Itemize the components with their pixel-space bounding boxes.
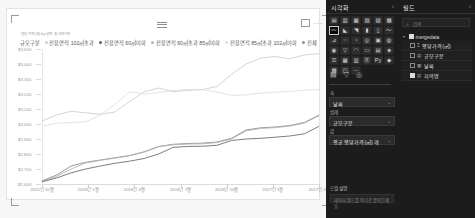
chevron-down-icon[interactable]: ⌄ (387, 138, 391, 143)
visual-pane-tabs[interactable]: ▤ ▽ ◎ (330, 71, 362, 79)
report-canvas[interactable]: ··· 평당 가격(원) by 날짜 및 규모구분 규모구분 전용면적 102㎡… (0, 0, 326, 218)
hamburger-icon[interactable] (157, 20, 167, 28)
chevron-down-icon[interactable]: ▾ (403, 34, 407, 39)
well-values[interactable]: 평균 평당가격(㎡) 개 ⌄ (329, 135, 395, 145)
filter-icon[interactable]: ▽ (344, 71, 349, 79)
well-axis[interactable]: 날짜 ⌄ (329, 97, 395, 107)
legend-swatch (151, 41, 154, 44)
ribbon-chart-icon[interactable]: 〜 (384, 26, 394, 35)
key-influencers-icon[interactable]: ◆ (384, 56, 394, 65)
chart-legend[interactable]: 규모구분 전용면적 102㎡초과 전용면적 60㎡이하 전용면적 60㎡초과 8… (20, 38, 320, 47)
fields-table-node[interactable]: ▾ mergedata (401, 32, 472, 41)
fields-search-placeholder: 검색 (413, 21, 421, 27)
x-axis-tick (134, 184, 135, 188)
multi-row-card-icon[interactable]: ▤ (373, 46, 383, 55)
matrix-icon[interactable]: ▥ (351, 56, 361, 65)
drill-through-label: 드릴 설명 (330, 184, 347, 191)
legend-item[interactable]: 전용면적 102㎡초과 (45, 39, 95, 46)
legend-label: 전용면적 60㎡이하 (104, 39, 146, 46)
python-visual-icon[interactable]: Py (373, 56, 383, 65)
100-stacked-column-icon[interactable]: ▩ (384, 16, 394, 25)
legend-swatch (225, 41, 228, 44)
well-label-axis: 축 (330, 90, 395, 96)
y-axis-tick (36, 64, 41, 65)
visual-header-toolbar[interactable]: ··· (157, 19, 325, 30)
chart-plot-area[interactable]: $3,500$3,400$3,300$3,200$3,100$3,000$2,9… (18, 49, 320, 194)
x-axis-tick (227, 184, 228, 188)
field-checkbox[interactable] (410, 73, 415, 78)
area-chart-icon[interactable]: ◣ (340, 26, 350, 35)
table-icon[interactable]: ▦ (340, 56, 350, 65)
treemap-icon[interactable]: ▣ (373, 36, 383, 45)
visualizations-pane-header[interactable]: 시각화 › (326, 0, 398, 14)
x-axis-tick (319, 184, 320, 188)
table-checkbox[interactable] (409, 34, 414, 39)
drill-through-dropzone[interactable]: 데이터 필드를 여기로 끌어오세요. (330, 194, 394, 203)
field-item[interactable]: Σ 평당가격(㎡) (401, 41, 472, 51)
visualizations-pane-title: 시각화 (331, 3, 349, 12)
analytics-magnifier-icon[interactable]: ◎ (356, 71, 362, 79)
selection-handle[interactable] (11, 198, 19, 206)
legend-item[interactable]: 전용면적 60㎡초과 85㎡이하 (151, 39, 220, 46)
clustered-bar-chart-icon[interactable]: ▦ (351, 16, 361, 25)
pie-chart-icon[interactable]: ◔ (351, 36, 361, 45)
line-clustered-column-icon[interactable]: ▯ (373, 26, 383, 35)
legend-swatch (302, 41, 305, 44)
line-chart-visual[interactable]: ··· 평당 가격(원) by 날짜 및 규모구분 규모구분 전용면적 102㎡… (6, 8, 320, 200)
field-label: 지역명 (424, 72, 439, 79)
visual-type-glyph: ▯ (376, 28, 379, 34)
line-series (42, 126, 319, 182)
selection-handle[interactable] (11, 15, 19, 23)
legend-item[interactable]: 전용면적 60㎡이하 (99, 39, 146, 46)
fields-search-box[interactable]: ⌕ 검색 (402, 18, 470, 27)
field-item[interactable]: ▦ 날짜 (401, 61, 472, 71)
r-script-visual-icon[interactable]: Ⓡ (362, 56, 372, 65)
format-paint-icon[interactable]: ▤ (330, 71, 337, 79)
card-icon[interactable]: ▭ (362, 46, 372, 55)
legend-swatch (99, 41, 102, 44)
field-wells[interactable]: 축 날짜 ⌄ 범례 규모구분 ⌄ 값 평균 평당가격(㎡) 개 ⌄ (329, 88, 395, 145)
stacked-column-chart-icon[interactable]: ▥ (340, 16, 350, 25)
field-checkbox[interactable] (410, 53, 415, 58)
fields-pane[interactable]: 필드 › ⌕ 검색 ▾ mergedata Σ 평당가격(㎡) ▤ 규모구분 (398, 0, 475, 218)
legend-item[interactable]: 전체 (302, 39, 317, 46)
visual-type-gallery[interactable]: ▤▥▦▧▨▩〰◣◥▮▯〜⊿⁘◔◎▣◍◉▽◠▭▤◈☰▦▥ⓇPy◆▩◰⋯ (329, 16, 395, 75)
waterfall-chart-icon[interactable]: ⊿ (329, 36, 339, 45)
stacked-bar-chart-icon[interactable]: ▤ (329, 16, 339, 25)
field-checkbox[interactable] (410, 43, 415, 48)
100-stacked-bar-icon[interactable]: ▨ (373, 16, 383, 25)
gauge-chart-icon[interactable]: ◠ (351, 46, 361, 55)
clustered-column-chart-icon[interactable]: ▧ (362, 16, 372, 25)
visual-type-glyph: ◠ (354, 48, 359, 54)
visual-type-glyph: Ⓡ (364, 58, 370, 64)
field-item[interactable]: ▤ 규모구분 (401, 51, 472, 61)
filled-map-icon[interactable]: ◉ (329, 46, 339, 55)
visualizations-pane[interactable]: 시각화 › ▤▥▦▧▨▩〰◣◥▮▯〜⊿⁘◔◎▣◍◉▽◠▭▤◈☰▦▥ⓇPy◆▩◰⋯… (326, 0, 399, 218)
focus-mode-icon[interactable] (301, 19, 310, 27)
stacked-area-chart-icon[interactable]: ◥ (351, 26, 361, 35)
donut-chart-icon[interactable]: ◎ (362, 36, 372, 45)
fields-tree[interactable]: ▾ mergedata Σ 평당가격(㎡) ▤ 규모구분 ▦ 날짜 ▤ (401, 32, 472, 81)
line-series (42, 90, 319, 127)
visual-type-glyph: ▥ (353, 58, 358, 64)
funnel-chart-icon[interactable]: ▽ (340, 46, 350, 55)
line-chart-icon[interactable]: 〰 (329, 26, 339, 35)
chevron-right-icon[interactable]: › (469, 3, 471, 9)
slicer-icon[interactable]: ☰ (329, 56, 339, 65)
chevron-down-icon[interactable]: ⌄ (387, 119, 391, 124)
legend-item[interactable]: 전용면적 85㎡초과 102㎡이하 (225, 39, 297, 46)
chevron-right-icon[interactable]: › (392, 3, 394, 9)
chevron-down-icon[interactable]: ⌄ (387, 100, 391, 105)
x-axis-tick (88, 184, 89, 188)
fields-pane-header[interactable]: 필드 › (398, 0, 475, 14)
scatter-chart-icon[interactable]: ⁘ (340, 36, 350, 45)
well-legend[interactable]: 규모구분 ⌄ (329, 116, 395, 126)
field-item[interactable]: ▤ 지역명 (401, 71, 472, 81)
field-checkbox[interactable] (410, 63, 415, 68)
well-legend-value: 규모구분 (333, 119, 353, 126)
map-icon[interactable]: ◍ (384, 36, 394, 45)
line-stacked-column-icon[interactable]: ▮ (362, 26, 372, 35)
y-axis-tick (36, 154, 41, 155)
kpi-icon[interactable]: ◈ (384, 46, 394, 55)
visual-type-glyph: ▦ (353, 18, 358, 24)
